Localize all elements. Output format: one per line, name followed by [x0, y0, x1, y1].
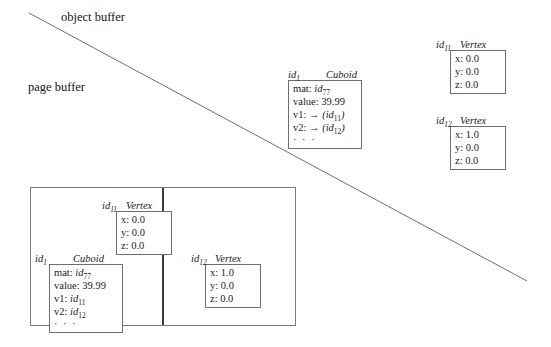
record-type: Vertex — [460, 39, 486, 50]
record-id: id11 — [436, 39, 451, 50]
field-value: value: 39.99 — [54, 279, 118, 292]
record-id: id1 — [35, 253, 47, 264]
record-header: id12 Vertex — [191, 250, 261, 264]
record-body: x: 0.0 y: 0.0 z: 0.0 — [116, 211, 172, 255]
record-id: id12 — [191, 253, 207, 264]
field-z: z: 0.0 — [210, 292, 256, 305]
field-mat: mat: id77 — [54, 266, 118, 279]
page-buffer-vertex-12-record: id12 Vertex x: 1.0 y: 0.0 z: 0.0 — [191, 250, 261, 308]
field-ellipsis: · · · — [293, 134, 357, 146]
field-x: x: 0.0 — [455, 52, 501, 65]
diagram-canvas: object buffer page buffer id1 Cuboid mat… — [0, 0, 551, 347]
field-y: y: 0.0 — [210, 279, 256, 292]
record-type: Vertex — [460, 115, 486, 126]
field-v1: v1: → (id11) — [293, 108, 357, 121]
record-body: x: 1.0 y: 0.0 z: 0.0 — [205, 264, 261, 308]
page-buffer-frame: id11 Vertex x: 0.0 y: 0.0 z: 0.0 — [30, 187, 296, 326]
record-body: x: 0.0 y: 0.0 z: 0.0 — [450, 50, 506, 94]
record-body: mat: id77 value: 39.99 v1: id11 v2: id12… — [49, 264, 123, 333]
page-buffer-vertex-11-record: id11 Vertex x: 0.0 y: 0.0 z: 0.0 — [102, 197, 172, 255]
page-buffer-cuboid-record: id1 Cuboid mat: id77 value: 39.99 v1: id… — [35, 250, 123, 333]
field-v2: v2: → (id12) — [293, 121, 357, 134]
object-buffer-cuboid-record: id1 Cuboid mat: id77 value: 39.99 v1: → … — [288, 66, 362, 149]
object-buffer-vertex-12-record: id12 Vertex x: 1.0 y: 0.0 z: 0.0 — [436, 112, 506, 170]
field-v2: v2: id12 — [54, 305, 118, 318]
field-z: z: 0.0 — [455, 78, 501, 91]
pointer-arrow-icon: → — [309, 109, 320, 120]
pointer-arrow-icon: → — [309, 122, 320, 133]
field-mat: mat: id77 — [293, 82, 357, 95]
record-id: id11 — [102, 200, 117, 211]
object-buffer-vertex-11-record: id11 Vertex x: 0.0 y: 0.0 z: 0.0 — [436, 36, 506, 94]
record-type: Vertex — [126, 200, 152, 211]
record-type: Cuboid — [326, 69, 357, 80]
record-header: id12 Vertex — [436, 112, 506, 126]
record-header: id1 Cuboid — [288, 66, 362, 80]
record-body: mat: id77 value: 39.99 v1: → (id11) v2: … — [288, 80, 362, 149]
field-y: y: 0.0 — [455, 65, 501, 78]
record-type: Cuboid — [73, 253, 104, 264]
field-v1: v1: id11 — [54, 292, 118, 305]
record-header: id1 Cuboid — [35, 250, 123, 264]
field-x: x: 1.0 — [455, 128, 501, 141]
field-z: z: 0.0 — [121, 239, 167, 252]
record-id: id12 — [436, 115, 452, 126]
page-buffer-label: page buffer — [28, 80, 85, 95]
field-y: y: 0.0 — [121, 226, 167, 239]
field-z: z: 0.0 — [455, 154, 501, 167]
field-x: x: 1.0 — [210, 266, 256, 279]
field-ellipsis: · · · — [54, 318, 118, 330]
field-value: value: 39.99 — [293, 95, 357, 108]
record-type: Vertex — [215, 253, 241, 264]
field-y: y: 0.0 — [455, 141, 501, 154]
record-id: id1 — [288, 69, 300, 80]
object-buffer-label: object buffer — [61, 10, 125, 25]
record-header: id11 Vertex — [102, 197, 172, 211]
record-body: x: 1.0 y: 0.0 z: 0.0 — [450, 126, 506, 170]
record-header: id11 Vertex — [436, 36, 506, 50]
field-x: x: 0.0 — [121, 213, 167, 226]
